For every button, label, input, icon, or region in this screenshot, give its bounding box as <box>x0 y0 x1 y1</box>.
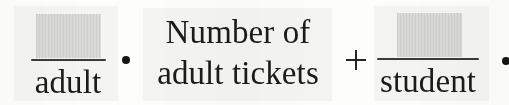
fraction-denominator-student: student <box>375 65 481 98</box>
phrase-number-of-adult-tickets: Number of adult tickets <box>148 12 328 94</box>
multiplication-dot-icon <box>122 56 130 64</box>
blank-answer-box-adult[interactable] <box>36 14 101 58</box>
plus-sign-icon <box>346 50 366 70</box>
fraction-bar-student <box>377 58 479 60</box>
fraction-bar-adult <box>31 59 106 61</box>
fraction-adult: adult <box>28 10 108 98</box>
fraction-student: student <box>375 10 481 98</box>
multiplication-dot-trailing-icon <box>502 57 509 65</box>
phrase-line-2: adult tickets <box>148 53 328 94</box>
math-expression-canvas: adult Number of adult tickets student <box>0 0 509 105</box>
phrase-line-1: Number of <box>148 12 328 53</box>
blank-answer-box-student[interactable] <box>397 13 462 57</box>
fraction-denominator-adult: adult <box>28 66 108 99</box>
